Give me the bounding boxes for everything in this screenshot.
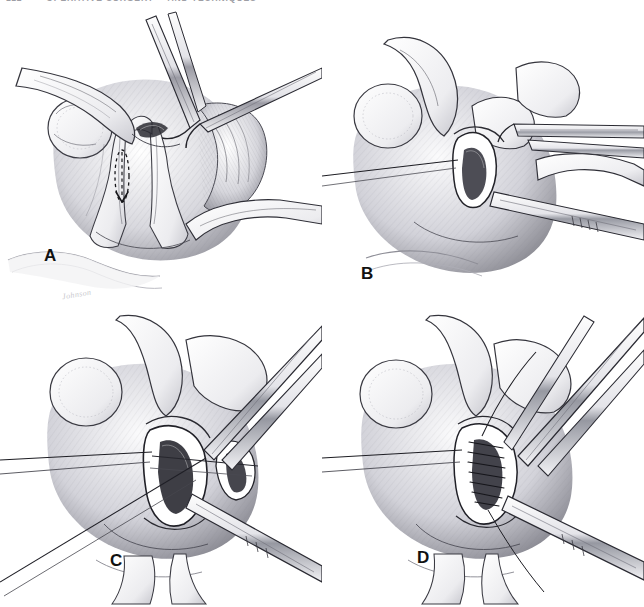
surgical-figure: Johnson — [0, 10, 644, 607]
panel-label-c: C — [110, 551, 123, 571]
figure-panel-d — [322, 310, 644, 607]
panel-d-spinous-process — [422, 554, 518, 604]
running-head-separator: • — [37, 0, 41, 3]
running-head-spacer — [159, 0, 162, 3]
running-head: 112•OPERATIVE SURGERY AND TECHNIQUES — [6, 0, 636, 5]
panel-c-facet-bone — [50, 358, 122, 426]
panel-label-b: B — [361, 264, 374, 284]
panel-b-facet-bone — [354, 84, 422, 148]
panel-label-d: D — [417, 548, 430, 568]
panel-c-spinous-process — [112, 554, 206, 604]
panel-label-a: A — [44, 246, 57, 266]
running-head-subsection: AND TECHNIQUES — [167, 0, 256, 3]
panel-d-facet-bone — [360, 360, 432, 428]
running-head-section: OPERATIVE SURGERY — [46, 0, 154, 3]
figure-panel-c — [0, 310, 322, 607]
page-folio: 112 — [6, 0, 22, 3]
